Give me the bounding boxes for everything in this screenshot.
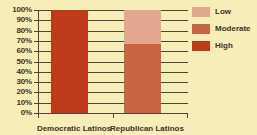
y-axis-tick-label: 100% [12,6,32,14]
y-axis-tick [34,41,38,42]
y-axis-tick-label: 50% [17,58,32,66]
legend-label-high: High [215,42,233,50]
y-axis-tick-label: 0% [21,109,32,117]
y-axis-tick-label: 10% [17,99,32,107]
y-axis-tick [34,82,38,83]
y-axis-tick-label: 70% [17,37,32,45]
y-axis-tick-label: 40% [17,68,32,76]
y-axis-tick-label: 60% [17,47,32,55]
chart-container: 0%10%20%30%40%50%60%70%80%90%100% Democr… [0,0,257,135]
legend-item-moderate: Moderate [192,23,251,34]
y-axis-tick [34,10,38,11]
plot-area: 0%10%20%30%40%50%60%70%80%90%100% Democr… [38,10,188,113]
y-axis-tick [34,20,38,21]
y-axis-tick [34,103,38,104]
y-axis-tick-label: 30% [17,78,32,86]
legend-label-moderate: Moderate [215,25,251,33]
y-axis-tick-label: 80% [17,27,32,35]
x-axis-tick [187,113,188,118]
y-axis-tick [34,51,38,52]
legend-swatch-high [192,41,210,51]
y-axis-tick [34,72,38,73]
legend-item-low: Low [192,6,251,17]
x-axis-tick [113,113,114,118]
chart-title-fragment [36,0,156,5]
x-axis-label: Republican Latinos [77,124,217,133]
y-axis-tick-label: 20% [17,88,32,96]
legend-item-high: High [192,40,251,51]
legend-swatch-moderate [192,24,210,34]
y-axis-tick [34,31,38,32]
y-axis-tick-label: 90% [17,16,32,24]
legend-swatch-low [192,7,210,17]
bar-segment-high[interactable] [51,10,88,113]
bar-segment-low[interactable] [124,10,161,44]
legend-label-low: Low [215,8,231,16]
y-axis-tick [34,62,38,63]
bar-segment-moderate[interactable] [124,44,161,113]
x-axis-tick [38,113,39,118]
y-axis-tick [34,92,38,93]
chart-legend: Low Moderate High [192,6,251,57]
